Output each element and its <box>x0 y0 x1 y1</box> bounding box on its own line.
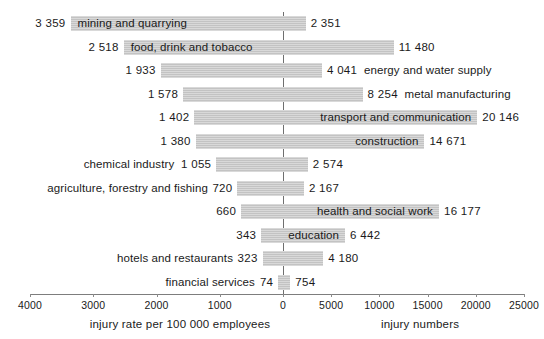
rate-value: 3 359 <box>35 15 65 31</box>
rate-value: 74 <box>260 274 273 290</box>
tick-mark <box>283 294 284 297</box>
table-row: 1 40220 146transport and communication <box>0 106 539 130</box>
table-row: 1 38014 671construction <box>0 130 539 154</box>
category-label: education <box>288 227 339 243</box>
tick-mark <box>331 294 332 297</box>
rate-value: 1 055 <box>181 156 211 172</box>
tick-mark <box>524 294 525 297</box>
category-label: mining and quarrying <box>78 15 187 31</box>
category-label: metal manufacturing <box>405 86 511 102</box>
bar-6 <box>216 157 308 172</box>
tick-label: 2000 <box>129 299 185 312</box>
table-row: 1 5788 254metal manufacturing <box>0 83 539 107</box>
table-row: 1 9334 041energy and water supply <box>0 59 539 83</box>
number-value: 11 480 <box>399 39 435 55</box>
category-label: transport and communication <box>320 109 471 125</box>
rate-value: 323 <box>237 250 257 266</box>
number-value: 14 671 <box>429 133 466 149</box>
number-value: 2 574 <box>313 156 343 172</box>
rate-value: 660 <box>216 203 236 219</box>
table-row: 3436 442education <box>0 224 539 248</box>
table-row: 7202 167agriculture, forestry and fishin… <box>0 177 539 201</box>
category-label: energy and water supply <box>364 62 492 78</box>
tick-label: 25000 <box>496 299 544 312</box>
number-value: 16 177 <box>444 203 481 219</box>
tick-mark <box>220 294 221 297</box>
tick-label: 3000 <box>65 299 121 312</box>
tick-mark <box>93 294 94 297</box>
rate-value: 1 933 <box>125 62 155 78</box>
table-row: 3234 180hotels and restaurants <box>0 247 539 271</box>
number-value: 4 041 <box>327 62 357 78</box>
number-value: 6 442 <box>350 227 380 243</box>
category-label: construction <box>355 133 418 149</box>
rate-value: 2 518 <box>88 39 118 55</box>
table-row: 3 3592 351mining and quarrying <box>0 12 539 36</box>
tick-mark <box>476 294 477 297</box>
number-value: 754 <box>295 274 315 290</box>
tick-label: 1000 <box>192 299 248 312</box>
bar-2 <box>161 63 322 78</box>
tick-label: 4000 <box>2 299 58 312</box>
table-row: 2 51811 480food, drink and tobacco <box>0 36 539 60</box>
right-axis-title: injury numbers <box>330 317 510 332</box>
rate-value: 720 <box>212 180 232 196</box>
table-row: 66016 177health and social work <box>0 200 539 224</box>
rate-value: 1 380 <box>160 133 190 149</box>
number-value: 8 254 <box>368 86 398 102</box>
tick-mark <box>428 294 429 297</box>
rate-value: 1 402 <box>159 109 189 125</box>
bar-11 <box>278 275 290 290</box>
category-label: agriculture, forestry and fishing <box>47 180 208 196</box>
number-value: 20 146 <box>482 109 519 125</box>
tick-mark <box>379 294 380 297</box>
category-label: chemical industry <box>84 156 175 172</box>
category-label: hotels and restaurants <box>117 250 233 266</box>
bar-7 <box>237 181 303 196</box>
table-row: 74754financial services <box>0 271 539 295</box>
tick-mark <box>30 294 31 297</box>
bar-10 <box>263 251 324 266</box>
left-axis-title: injury rate per 100 000 employees <box>60 317 300 332</box>
number-value: 2 351 <box>311 15 341 31</box>
category-label: food, drink and tobacco <box>131 39 253 55</box>
table-row: 1 0552 574chemical industry <box>0 153 539 177</box>
rate-value: 1 578 <box>148 86 178 102</box>
number-value: 4 180 <box>328 250 358 266</box>
rate-value: 343 <box>236 227 256 243</box>
bar-3 <box>183 87 362 102</box>
number-value: 2 167 <box>309 180 339 196</box>
category-label: health and social work <box>317 203 433 219</box>
tick-mark <box>157 294 158 297</box>
category-label: financial services <box>166 274 255 290</box>
